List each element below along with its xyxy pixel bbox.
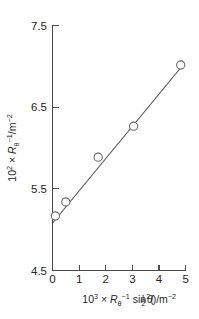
data-points bbox=[51, 61, 184, 220]
y-tick-label-0: 7.5 bbox=[31, 20, 47, 32]
x-title-frac-denominator: 2 bbox=[142, 300, 146, 307]
x-title-unit-exp: −2 bbox=[168, 292, 176, 301]
y-tick-label-1: 6.5 bbox=[31, 101, 47, 113]
x-tick-label-3: 3 bbox=[129, 273, 135, 285]
scatter-plot: 7.5 6.5 5.5 4.5 0 1 2 3 4 5 102 × Rθ− bbox=[0, 0, 199, 319]
chart-figure: 7.5 6.5 5.5 4.5 0 1 2 3 4 5 102 × Rθ− bbox=[0, 0, 199, 319]
x-axis-title: 103 × Rθ−1 sin2( 1 2 θ)/m−2 bbox=[82, 292, 176, 308]
y-tick-label-2: 5.5 bbox=[31, 183, 47, 195]
y-title-exponent: −1 bbox=[5, 134, 14, 142]
data-point bbox=[94, 153, 102, 161]
data-point bbox=[62, 198, 70, 206]
svg-text:102 × Rθ−1/m−2: 102 × Rθ−1/m−2 bbox=[5, 114, 21, 181]
data-point bbox=[177, 61, 185, 69]
y-title-base: 10 bbox=[6, 170, 18, 182]
svg-text:θ)/m−2: θ)/m−2 bbox=[147, 292, 176, 305]
x-tick-label-2: 2 bbox=[103, 273, 109, 285]
x-tick-label-0: 0 bbox=[49, 273, 55, 285]
x-title-unit: /m bbox=[156, 293, 168, 305]
y-tick-labels: 7.5 6.5 5.5 4.5 bbox=[31, 20, 47, 277]
x-tick-label-4: 4 bbox=[156, 273, 163, 285]
y-title-unit: /m bbox=[6, 122, 18, 134]
x-tick-label-1: 1 bbox=[76, 273, 82, 285]
y-tick-marks bbox=[53, 26, 59, 271]
x-title-exponent: −1 bbox=[122, 292, 130, 301]
x-title-base: 10 bbox=[82, 293, 94, 305]
x-tick-labels: 0 1 2 3 4 5 bbox=[49, 273, 189, 285]
axis-lines bbox=[53, 25, 187, 271]
x-tick-label-5: 5 bbox=[182, 273, 188, 285]
y-tick-label-3: 4.5 bbox=[31, 265, 47, 277]
linear-fit-line bbox=[53, 65, 183, 223]
data-point bbox=[130, 122, 138, 130]
x-tick-marks bbox=[53, 265, 186, 271]
y-axis-title: 102 × Rθ−1/m−2 bbox=[5, 114, 21, 181]
y-title-unit-exp: −2 bbox=[5, 114, 14, 122]
data-point bbox=[51, 212, 59, 220]
